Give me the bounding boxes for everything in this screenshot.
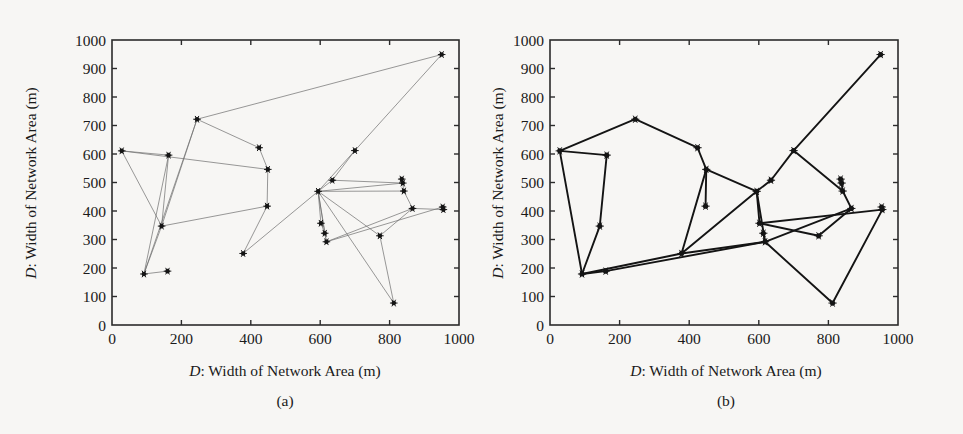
network-edge xyxy=(600,155,607,226)
node-dot xyxy=(316,189,321,194)
y-tick-label: 500 xyxy=(521,174,545,191)
network-edge xyxy=(197,119,259,147)
node-dot xyxy=(400,181,405,186)
panel-a-frame xyxy=(112,40,459,325)
y-tick-label: 0 xyxy=(536,317,544,334)
network-edge xyxy=(318,191,380,235)
node-dot xyxy=(703,204,708,209)
x-tick-label: 800 xyxy=(817,330,841,347)
network-edge xyxy=(243,206,267,253)
network-edge xyxy=(794,151,843,191)
node-dot xyxy=(878,52,883,57)
node-dot xyxy=(880,207,885,212)
network-edge xyxy=(122,151,268,170)
y-tick-label: 500 xyxy=(83,174,107,191)
network-node xyxy=(578,270,586,277)
panel-a-edges xyxy=(122,55,444,304)
network-edge xyxy=(794,55,881,151)
network-edge xyxy=(819,208,852,235)
x-tick-label: 200 xyxy=(170,330,194,347)
network-edge xyxy=(706,169,707,206)
node-dot xyxy=(791,148,796,153)
node-dot xyxy=(679,251,684,256)
x-tick-label: 400 xyxy=(239,330,263,347)
y-tick-label: 600 xyxy=(83,146,107,163)
node-dot xyxy=(241,251,246,256)
y-tick-label: 800 xyxy=(83,89,107,106)
network-edge xyxy=(332,151,355,181)
network-node xyxy=(603,152,611,159)
network-node xyxy=(323,238,331,245)
plot-frame xyxy=(112,40,459,325)
node-dot xyxy=(579,271,584,276)
x-tick-label: 400 xyxy=(678,330,702,347)
node-dot xyxy=(557,148,562,153)
node-dot xyxy=(265,204,270,209)
network-node xyxy=(701,203,709,210)
node-dot xyxy=(378,233,383,238)
node-dot xyxy=(353,148,358,153)
node-dot xyxy=(762,239,767,244)
panel-b-caption: (b) xyxy=(717,392,735,410)
network-node xyxy=(556,147,564,154)
network-node xyxy=(693,144,701,151)
node-dot xyxy=(324,239,329,244)
network-edge xyxy=(122,151,162,226)
network-node xyxy=(193,116,201,123)
panel-b-x-tick-labels: 02004006008001000 xyxy=(546,330,914,347)
node-dot xyxy=(319,221,324,226)
x-tick-label: 800 xyxy=(378,330,402,347)
node-dot xyxy=(441,207,446,212)
node-dot xyxy=(322,231,327,236)
node-dot xyxy=(257,145,262,150)
y-tick-label: 100 xyxy=(521,288,545,305)
node-dot xyxy=(119,149,124,154)
panel-a: 02004006008001000 0100200300400500600700… xyxy=(0,0,481,434)
network-node xyxy=(140,271,148,278)
network-node xyxy=(164,268,172,275)
node-dot xyxy=(166,153,171,158)
node-dot xyxy=(603,269,608,274)
network-edge xyxy=(380,208,413,235)
network-edge xyxy=(682,169,707,253)
network-edge xyxy=(582,226,600,274)
panel-b-frame xyxy=(550,40,898,325)
panel-b-svg: 02004006008001000 0100200300400500600700… xyxy=(481,0,963,434)
y-tick-label: 900 xyxy=(83,60,107,77)
network-edge xyxy=(318,151,355,192)
x-tick-label: 200 xyxy=(608,330,632,347)
network-edge xyxy=(162,206,267,226)
node-dot xyxy=(142,272,147,277)
network-edge xyxy=(765,208,851,241)
node-dot xyxy=(604,153,609,158)
node-dot xyxy=(391,301,396,306)
network-edge xyxy=(560,151,607,155)
y-tick-label: 600 xyxy=(521,146,545,163)
node-dot xyxy=(840,188,845,193)
network-node xyxy=(438,51,446,58)
network-edge xyxy=(757,180,771,191)
panel-a-y-tick-labels: 01002003004005006007008009001000 xyxy=(75,32,106,334)
node-dot xyxy=(159,224,164,229)
network-edge xyxy=(197,55,442,120)
network-edge xyxy=(560,119,636,151)
x-tick-label: 0 xyxy=(108,330,116,347)
network-edge xyxy=(144,155,169,274)
network-node xyxy=(596,223,604,230)
network-edge xyxy=(413,208,444,209)
node-dot xyxy=(330,178,335,183)
node-dot xyxy=(695,145,700,150)
y-tick-label: 800 xyxy=(521,89,545,106)
x-tick-label: 1000 xyxy=(883,330,914,347)
network-edge xyxy=(635,119,697,147)
network-edge xyxy=(332,180,402,183)
y-tick-label: 0 xyxy=(98,317,106,334)
x-tick-label: 600 xyxy=(747,330,771,347)
network-edge xyxy=(706,169,756,191)
node-dot xyxy=(266,167,271,172)
network-edge xyxy=(582,253,682,274)
y-tick-label: 400 xyxy=(521,203,545,220)
panel-a-x-axis-title: D: Width of Network Area (m) xyxy=(188,362,381,380)
node-dot xyxy=(195,117,200,122)
y-tick-label: 900 xyxy=(521,60,545,77)
